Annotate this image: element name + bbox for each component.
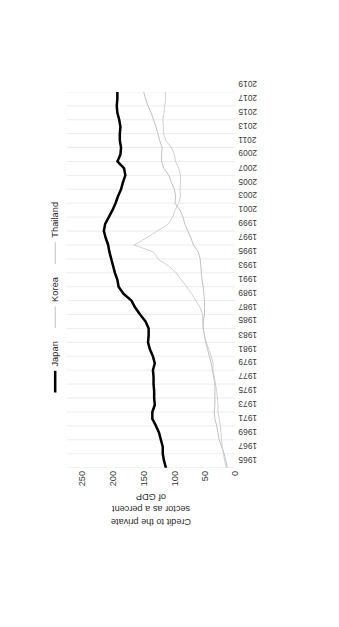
chart-figure: Japan Korea Thailand Credit to the priva… <box>44 80 295 548</box>
x-axis-tick-label: 2011 <box>238 135 256 144</box>
y-axis-tick-label: 250 <box>76 470 86 485</box>
x-axis-tick-label: 2003 <box>238 190 257 199</box>
plot-svg <box>66 91 235 467</box>
x-axis-tick-label: 1975 <box>238 385 257 394</box>
legend-entry-japan: Japan <box>49 341 59 392</box>
x-axis-tick-label: 2013 <box>238 121 257 130</box>
plot-area <box>66 91 235 467</box>
legend-label-japan: Japan <box>49 341 59 366</box>
legend-entry-korea: Korea <box>49 276 59 327</box>
x-axis-tick-label: 1973 <box>238 399 257 408</box>
chart-legend: Japan Korea Thailand <box>46 201 63 392</box>
x-axis-tick-label: 1983 <box>238 329 257 338</box>
x-axis-tick-label: 1979 <box>238 357 257 366</box>
x-axis-tick-label: 1971 <box>238 413 257 422</box>
chart-page: Japan Korea Thailand Credit to the priva… <box>0 0 339 627</box>
x-axis-tick-label: 1977 <box>238 371 257 380</box>
legend-line-swatch-korea <box>54 306 55 328</box>
y-axis-title-line: sector as a percent <box>100 503 200 515</box>
x-axis-tick-label: 1965 <box>238 455 257 464</box>
x-axis-tick-label: 1999 <box>238 218 257 227</box>
y-axis-tick-label: 150 <box>138 470 148 485</box>
rotated-figure-wrapper: Japan Korea Thailand Credit to the priva… <box>44 80 295 548</box>
x-axis-tick-label: 1969 <box>238 427 257 436</box>
x-axis-tick-label: 2017 <box>238 93 257 102</box>
legend-line-swatch-japan <box>53 370 56 392</box>
x-axis-tick-label: 1981 <box>238 343 257 352</box>
legend-label-thailand: Thailand <box>49 201 59 237</box>
x-axis-tick-label: 1967 <box>238 441 257 450</box>
y-axis-tick-label: 200 <box>107 470 117 485</box>
x-axis-tick-label: 1997 <box>238 232 257 241</box>
x-axis-tick-label: 1991 <box>238 274 257 283</box>
x-axis: 1965196719691971197319751977197919811983… <box>236 91 289 467</box>
x-axis-tick-label: 1987 <box>238 302 257 311</box>
x-axis-tick-label: 1989 <box>238 288 257 297</box>
x-axis-tick-label: 2015 <box>238 107 257 116</box>
x-axis-tick-label: 2001 <box>238 204 257 213</box>
y-axis-tick-label: 100 <box>168 470 178 485</box>
legend-entry-thailand: Thailand <box>49 201 59 263</box>
x-axis-tick-label: 2009 <box>238 148 257 157</box>
x-axis-tick-label: 1985 <box>238 315 257 324</box>
x-axis-tick-label: 2019 <box>238 79 257 88</box>
x-axis-tick-label: 2005 <box>238 176 257 185</box>
legend-line-swatch-thailand <box>54 241 55 263</box>
y-axis-title-line: Credit to the private <box>100 515 200 527</box>
y-axis-tick-label: 0 <box>230 470 240 475</box>
x-axis-tick-label: 1995 <box>238 246 257 255</box>
x-axis-tick-label: 2007 <box>238 162 257 171</box>
legend-label-korea: Korea <box>49 276 59 301</box>
x-axis-tick-label: 1993 <box>238 260 257 269</box>
y-axis: 050100150200250 <box>66 470 235 503</box>
y-axis-tick-label: 50 <box>199 470 209 480</box>
